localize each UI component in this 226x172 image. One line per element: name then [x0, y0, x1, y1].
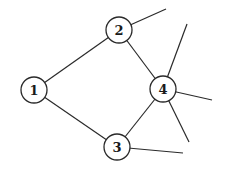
- node-label: 4: [158, 82, 167, 97]
- node-4: 4: [150, 76, 176, 102]
- node-label: 2: [114, 23, 123, 38]
- edge-1-3: [34, 90, 117, 147]
- edge-1-2: [34, 30, 119, 90]
- node-label: 1: [29, 83, 38, 98]
- network-graph: 1 2 3 4: [0, 0, 226, 172]
- node-3: 3: [104, 134, 130, 160]
- nodes-group: 1 2 3 4: [21, 17, 176, 160]
- node-label: 3: [112, 140, 121, 155]
- node-1: 1: [21, 77, 47, 103]
- node-2: 2: [106, 17, 132, 43]
